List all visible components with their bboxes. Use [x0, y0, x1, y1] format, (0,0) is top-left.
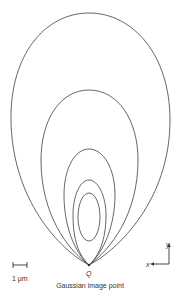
scale-bar-label: 1 μm	[12, 275, 28, 283]
contour-5	[78, 193, 100, 241]
contour-1	[11, 13, 170, 265]
axis-y-label: y	[165, 241, 170, 249]
contour-2	[41, 90, 138, 265]
caustic-diagram: Q Gaussian image point 1 μm y x	[0, 0, 181, 300]
scale-bar	[13, 262, 27, 268]
caption: Gaussian image point	[56, 282, 124, 290]
gaussian-image-point-marker	[88, 264, 90, 266]
point-label: Q	[86, 270, 92, 278]
axis-x-label: x	[145, 261, 150, 268]
